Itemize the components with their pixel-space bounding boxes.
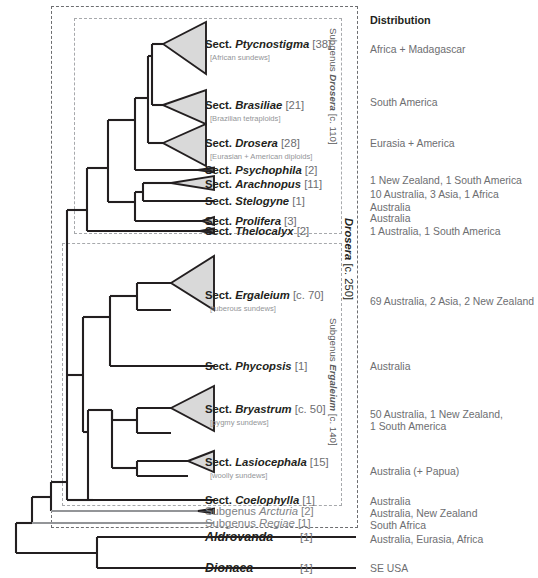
taxon-label-regiae: Subgenus Regiae [1] — [205, 518, 311, 529]
taxon-name: Regiae — [259, 517, 295, 529]
taxon-count: [21] — [282, 99, 304, 111]
taxon-label-brasiliae: Sect. Brasiliae [21] — [205, 100, 304, 111]
taxon-rank: Sect. — [205, 38, 235, 50]
taxon-label-stelogyne: Sect. Stelogyne [1] — [205, 196, 305, 207]
taxon-name: Brasiliae — [235, 99, 282, 111]
taxon-rank: Sect. — [205, 403, 235, 415]
distribution-aldrovanda: Australia, Eurasia, Africa — [370, 534, 483, 546]
distribution-regiae: South Africa — [370, 520, 426, 532]
distribution-stelogyne: Australia — [370, 202, 410, 214]
taxon-count: [2] — [294, 225, 310, 237]
taxon-rank: Sect. — [205, 360, 235, 372]
taxon-name: Stelogyne — [235, 195, 289, 207]
phylogenetic-tree-figure: Sect. Ptycnostigma [38] [African sundews… — [0, 0, 538, 578]
taxon-name: Ergaleium — [235, 289, 290, 301]
taxon-label-aldrovanda: Aldrovanda — [205, 531, 273, 543]
clade-triangle-ergaleium — [171, 256, 214, 310]
taxon-name: Psychophila — [235, 164, 302, 176]
distribution-brasiliae: South America — [370, 97, 438, 109]
taxon-name: Lasiocephala — [235, 456, 307, 468]
taxon-count: [2] — [298, 505, 314, 517]
taxon-rank: Subgenus — [205, 505, 259, 517]
taxon-name: Arachnopus — [235, 178, 301, 190]
taxon-count: [2] — [302, 164, 318, 176]
taxon-subtitle-bryastrum: [pygmy sundews] — [210, 419, 269, 427]
taxon-label-ptycnostigma: Sect. Ptycnostigma [38] — [205, 39, 331, 50]
taxon-subtitle-ptycnostigma: [African sundews] — [210, 54, 270, 62]
taxon-subtitle-lasiocephala: [woolly sundews] — [210, 472, 267, 480]
distribution-ptycnostigma: Africa + Madagascar — [370, 44, 466, 56]
taxon-label-bryastrum: Sect. Bryastrum [c. 50] — [205, 404, 326, 415]
taxon-name: Dionaea — [205, 561, 253, 575]
distribution-phycopsis: Australia — [370, 361, 410, 373]
taxon-rank: Sect. — [205, 164, 235, 176]
taxon-count-aldrovanda: [1] — [300, 532, 313, 543]
bracket-label-subgenus-ergaleium: Subgenus Ergaleium [c. 140] — [328, 318, 338, 446]
distribution-dionaea: SE USA — [370, 563, 408, 575]
taxon-rank: Sect. — [205, 225, 235, 237]
taxon-count: [15] — [307, 456, 329, 468]
taxon-label-dionaea: Dionaea — [205, 562, 253, 574]
taxon-subtitle-drosera: [Eurasian + American diploids] — [210, 153, 312, 161]
taxon-name: Ptycnostigma — [235, 38, 309, 50]
distribution-arcturia: Australia, New Zealand — [370, 508, 477, 520]
clade-triangle-brasiliae — [163, 90, 206, 124]
distribution-lasiocephala: Australia (+ Papua) — [370, 466, 459, 478]
taxon-name: Aldrovanda — [205, 530, 273, 544]
taxon-subtitle-ergaleium: [tuberous sundews] — [210, 305, 276, 313]
distribution-drosera: Eurasia + America — [370, 138, 455, 150]
taxon-rank: Sect. — [205, 456, 235, 468]
taxon-count: [1] — [289, 195, 305, 207]
taxon-name: Arcturia — [259, 505, 298, 517]
taxon-name: Drosera — [235, 137, 278, 149]
taxon-count: [11] — [301, 178, 322, 190]
taxon-name: Bryastrum — [235, 403, 292, 415]
distribution-thelocalyx: 1 Australia, 1 South America — [370, 226, 501, 238]
taxon-name: Thelocalyx — [235, 225, 293, 237]
taxon-rank: Sect. — [205, 99, 235, 111]
distribution-prolifera: Australia — [370, 213, 410, 225]
distribution-header: Distribution — [370, 14, 431, 26]
distribution-bryastrum: 50 Australia, 1 New Zealand, 1 South Ame… — [370, 409, 503, 432]
distribution-arachnopus: 10 Australia, 3 Asia, 1 Africa — [370, 189, 499, 201]
distribution-psychophila: 1 New Zealand, 1 South America — [370, 175, 522, 187]
taxon-label-ergaleium: Sect. Ergaleium [c. 70] — [205, 290, 324, 301]
taxon-label-lasiocephala: Sect. Lasiocephala [15] — [205, 457, 329, 468]
taxon-rank: Sect. — [205, 178, 235, 190]
taxon-label-arachnopus: Sect. Arachnopus [11] — [205, 179, 322, 190]
taxon-label-psychophila: Sect. Psychophila [2] — [205, 165, 317, 176]
taxon-count: [c. 50] — [292, 403, 326, 415]
taxon-count: [1] — [292, 360, 308, 372]
taxon-subtitle-brasiliae: [Brazilian tetraploids] — [210, 115, 281, 123]
taxon-count-dionaea: [1] — [300, 563, 313, 574]
taxon-label-thelocalyx: Sect. Thelocalyx [2] — [205, 226, 309, 237]
bracket-label-genus-drosera: Drosera [c. 250] — [343, 218, 354, 300]
clade-triangle-ptycnostigma — [163, 22, 206, 74]
taxon-rank: Sect. — [205, 289, 235, 301]
taxon-label-drosera: Sect. Drosera [28] — [205, 138, 300, 149]
taxon-name: Phycopsis — [235, 360, 292, 372]
taxon-count: [1] — [295, 517, 311, 529]
bracket-label-subgenus-drosera: Subgenus Drosera [c. 110] — [328, 28, 338, 145]
taxon-rank: Subgenus — [205, 517, 259, 529]
taxon-rank: Sect. — [205, 195, 235, 207]
taxon-count: [c. 70] — [290, 289, 324, 301]
clade-triangle-drosera — [163, 124, 206, 166]
distribution-ergaleium: 69 Australia, 2 Asia, 2 New Zealand — [370, 296, 534, 308]
taxon-rank: Sect. — [205, 137, 235, 149]
distribution-coelophylla: Australia — [370, 496, 410, 508]
taxon-count: [28] — [278, 137, 300, 149]
taxon-label-arcturia: Subgenus Arcturia [2] — [205, 506, 314, 517]
taxon-label-phycopsis: Sect. Phycopsis [1] — [205, 361, 307, 372]
